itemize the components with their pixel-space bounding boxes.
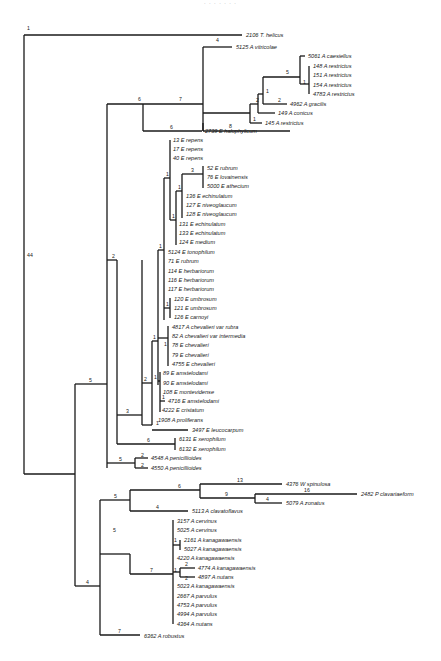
branch-length: 4	[266, 496, 269, 502]
taxon-label: 3497 E leucocarpum	[192, 427, 244, 433]
taxon-label: 4753 A parvulus	[177, 602, 217, 608]
taxon-label: 1908 A proliferans	[158, 417, 203, 423]
branch-length: 7	[118, 628, 121, 634]
taxon-label: 131 E echinulatum	[179, 221, 226, 227]
taxon-label: 148 A restrictus	[313, 63, 352, 69]
phylogenetic-tree: 1 44 4 7 6 8 5 1 1 2 2 1 6 1 3 1 1 2 1 1…	[0, 0, 441, 661]
branch-length: 5	[113, 527, 116, 533]
branch-length: 2	[185, 561, 188, 567]
taxon-label: 133 E echinulatum	[179, 230, 226, 236]
branch-length: 7	[150, 567, 153, 573]
taxon-label: 4364 A nutans	[177, 621, 213, 627]
branch-length: 3	[191, 167, 194, 173]
branch-length: 5	[119, 456, 122, 462]
taxon-label: 13 E repens	[173, 137, 203, 143]
taxon-label: 3157 A cervinus	[177, 518, 217, 524]
taxon-label: 2106 T. helicus	[245, 32, 284, 38]
taxon-label: 4376 W spinulosa	[286, 481, 330, 487]
taxon-label: 2482 P clavariaeform	[360, 491, 414, 497]
branch-length: 2	[256, 97, 259, 103]
taxon-label: 5113 A clavatoflavus	[192, 508, 243, 514]
branch-length: 4	[216, 37, 219, 43]
branch-length: 5	[114, 493, 117, 499]
taxon-label: 4783 A restrictus	[313, 91, 355, 97]
branch-length: 1	[27, 25, 30, 31]
taxon-label: 5025 A cervinus	[177, 527, 217, 533]
taxon-label: 4897 A nutans	[198, 574, 234, 580]
branch-length: 16	[304, 487, 310, 493]
taxon-labels: 2106 T. helicus 5125 A vitricolae 5061 A…	[144, 32, 414, 639]
branch-length: 2	[185, 575, 188, 581]
branch-length: 1	[266, 88, 269, 94]
branch-length: 2	[141, 452, 144, 458]
taxon-label: 71 E rubrum	[168, 258, 199, 264]
branch-length: 1	[166, 301, 169, 307]
branch-length: 1	[166, 171, 169, 177]
taxon-label: 5000 E athecium	[207, 183, 249, 189]
branch-length: 2	[141, 462, 144, 468]
taxon-label: 2739 E halophylicum	[204, 128, 257, 134]
taxon-label: 108 E montevidense	[163, 389, 214, 395]
branch-length: 1	[174, 537, 177, 543]
branch-length: 2	[112, 253, 115, 259]
taxon-label: 4550 A penicillioides	[151, 465, 202, 471]
taxon-label: 145 A restrictus	[265, 120, 304, 126]
taxon-label: 2667 A parvulus	[176, 593, 217, 599]
taxon-label: 149 A conicus	[278, 110, 313, 116]
taxon-label: 4548 A penicillioides	[151, 455, 202, 461]
taxon-label: 116 E herbariorum	[168, 277, 214, 283]
taxon-label: 151 A restrictus	[313, 72, 352, 78]
taxon-label: 4994 A parvulus	[177, 611, 217, 617]
taxon-label: 5079 A zonatus	[286, 500, 325, 506]
branch-length: 6	[178, 483, 181, 489]
taxon-label: 4222 E cristatum	[162, 407, 204, 413]
branch-length: 1	[164, 341, 167, 347]
taxon-label: 4755 E chevalieri	[172, 361, 216, 367]
taxon-label: 4220 A kanagawaensis	[177, 555, 235, 561]
branch-length: 1	[172, 213, 175, 219]
taxon-label: 17 E repens	[173, 146, 203, 152]
taxon-label: 4716 E amstelodami	[168, 398, 220, 404]
branch-length: 44	[27, 252, 33, 258]
taxon-label: 52 E rubrum	[207, 165, 238, 171]
branch-length: 1	[159, 243, 162, 249]
taxon-label: 4962 A gracilis	[290, 101, 326, 107]
taxon-label: 5125 A vitricolae	[236, 44, 277, 50]
taxon-label: 126 E carnoyi	[174, 314, 209, 320]
taxon-label: 4774 A kanagawaensis	[198, 565, 256, 571]
branch-length: 13	[237, 477, 243, 483]
taxon-label: 124 E medium	[179, 239, 215, 245]
taxon-label: 117 E herbariorum	[168, 286, 214, 292]
taxon-label: 89 E amstelodami	[163, 370, 209, 376]
taxon-label: 79 E chevalieri	[172, 352, 209, 358]
taxon-label: 5124 E tonophilum	[168, 249, 215, 255]
branch-length: 1	[154, 374, 157, 380]
branch-length: 7	[179, 96, 182, 102]
taxon-label: 127 E niveoglaucum	[186, 202, 237, 208]
taxon-label: 2161 A kanagawaensis	[183, 537, 242, 543]
taxon-label: 120 E umbrosum	[174, 296, 217, 302]
taxon-label: 154 A restrictus	[313, 82, 352, 88]
taxon-label: 5027 A kanagawaensis	[184, 546, 242, 552]
taxon-label: 128 E niveoglaucum	[186, 211, 237, 217]
branch-length: 6	[138, 96, 141, 102]
branch-length: 6	[170, 124, 173, 130]
branch-length: 5	[89, 377, 92, 383]
taxon-label: 121 E umbrosum	[174, 305, 217, 311]
branch-length: 1	[253, 116, 256, 122]
taxon-label: 6362 A robustus	[144, 633, 185, 639]
taxon-label: 76 E lovainensis	[207, 174, 248, 180]
taxon-label: 4817 A chevalieri var rubra	[172, 324, 238, 330]
taxon-label: 6131 E xerophilum	[179, 436, 226, 442]
branch-length: 1	[178, 184, 181, 190]
taxon-label: 82 A chevalieri var intermedia	[172, 333, 245, 339]
branch-length: 9	[225, 491, 228, 497]
taxon-label: 6132 E xerophilum	[179, 446, 226, 452]
branch-length: 1	[153, 334, 156, 340]
taxon-label: 5023 A kanagawaensis	[177, 583, 235, 589]
taxon-label: 5061 A caesiellus	[308, 53, 352, 59]
branch-length: 1	[174, 567, 177, 573]
branch-length: 2	[278, 97, 281, 103]
taxon-label: 90 E amstelodami	[163, 380, 209, 386]
taxon-label: 40 E repens	[173, 155, 203, 161]
